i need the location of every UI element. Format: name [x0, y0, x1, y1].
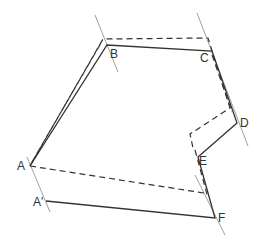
vertex-label-f: F	[218, 212, 225, 224]
vertex-label-b: B	[110, 48, 118, 60]
vertex-label-e: E	[199, 155, 207, 167]
vertex-label-a: A	[17, 160, 25, 172]
dashed-edge	[30, 166, 204, 193]
vertex-label-a-prime: A'	[33, 196, 43, 208]
diagram-canvas: AA'BCDEF	[0, 0, 263, 244]
dashed-edge	[212, 55, 232, 112]
guide-line	[95, 15, 118, 72]
vertex-label-c: C	[200, 52, 209, 64]
guide-line	[195, 175, 225, 235]
vertex-label-d: D	[240, 117, 249, 129]
